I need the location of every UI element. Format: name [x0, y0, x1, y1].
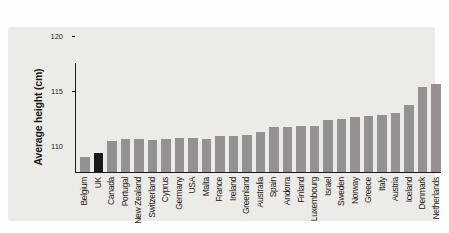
x-axis-label: France: [215, 177, 224, 233]
bar-column: Iceland: [404, 63, 414, 172]
bar-sweden: [337, 119, 347, 172]
x-axis-label: Austria: [391, 177, 400, 233]
bar-column: Greenland: [242, 63, 252, 172]
bar-usa: [188, 138, 198, 172]
x-axis-label: Israel: [324, 177, 333, 233]
plot-area: BelgiumUKCanadaPortugalNew ZealandSwitze…: [75, 63, 441, 173]
y-tick-mark: [72, 91, 76, 92]
bar-column: USA: [188, 63, 198, 172]
bar-canada: [107, 141, 117, 172]
x-axis-label: Greece: [364, 177, 373, 233]
bar-column: Israel: [323, 63, 333, 172]
figure: Average height (cm) BelgiumUKCanadaPortu…: [0, 0, 449, 233]
bar-uk: [94, 153, 104, 172]
bar-greece: [364, 116, 374, 172]
bar-germany: [175, 138, 185, 172]
chart-card: Average height (cm) BelgiumUKCanadaPortu…: [8, 27, 435, 221]
bar-column: Austria: [391, 63, 401, 172]
x-axis-label: Switzerland: [148, 177, 157, 233]
x-axis-label: Portugal: [121, 177, 130, 233]
bar-belgium: [80, 157, 90, 172]
bar-switzerland: [148, 140, 158, 172]
bar-norway: [350, 117, 360, 172]
y-axis-title: Average height (cm): [32, 69, 44, 166]
bar-netherlands: [431, 84, 441, 172]
bar-column: Germany: [175, 63, 185, 172]
x-axis-label: Cyprus: [161, 177, 170, 233]
x-axis-label: Norway: [351, 177, 360, 233]
x-axis-label: Malta: [202, 177, 211, 233]
bar-spain: [269, 127, 279, 172]
bar-column: Malta: [202, 63, 212, 172]
bar-column: UK: [94, 63, 104, 172]
x-axis-label: Canada: [107, 177, 116, 233]
y-tick-label: 115: [43, 87, 63, 96]
bar-new-zealand: [134, 139, 144, 172]
x-axis-label: Australia: [256, 177, 265, 233]
bar-denmark: [418, 87, 428, 172]
x-axis-label: USA: [188, 177, 197, 233]
x-axis-label: Greenland: [242, 177, 251, 233]
bar-column: Finland: [296, 63, 306, 172]
bar-ireland: [229, 136, 239, 172]
x-axis-label: Germany: [175, 177, 184, 233]
bar-column: Italy: [377, 63, 387, 172]
bar-column: Cyprus: [161, 63, 171, 172]
bar-column: Norway: [350, 63, 360, 172]
x-axis-label: Finland: [297, 177, 306, 233]
x-axis-label: Sweden: [337, 177, 346, 233]
bar-column: Switzerland: [148, 63, 158, 172]
y-tick-label: 110: [43, 142, 63, 151]
x-axis-label: UK: [94, 177, 103, 233]
bar-greenland: [242, 135, 252, 172]
x-axis-label: Netherlands: [432, 177, 441, 233]
x-axis-label: Denmark: [418, 177, 427, 233]
bar-andorra: [283, 127, 293, 172]
x-axis-label: Italy: [378, 177, 387, 233]
bar-column: Australia: [256, 63, 266, 172]
bar-australia: [256, 132, 266, 172]
bar-column: Luxembourg: [310, 63, 320, 172]
x-axis-label: Ireland: [229, 177, 238, 233]
bar-portugal: [121, 139, 131, 172]
bar-austria: [391, 113, 401, 172]
bar-malta: [202, 139, 212, 172]
bar-column: Greece: [364, 63, 374, 172]
bar-column: Portugal: [121, 63, 131, 172]
bar-column: New Zealand: [134, 63, 144, 172]
bar-column: Sweden: [337, 63, 347, 172]
bar-france: [215, 136, 225, 172]
y-tick-label: 120: [43, 32, 63, 41]
bar-column: Spain: [269, 63, 279, 172]
bar-column: Andorra: [283, 63, 293, 172]
x-axis-label: Iceland: [405, 177, 414, 233]
bar-column: Canada: [107, 63, 117, 172]
x-axis-label: Luxembourg: [310, 177, 319, 233]
x-axis-label: Andorra: [283, 177, 292, 233]
bar-italy: [377, 115, 387, 172]
bar-finland: [296, 126, 306, 172]
y-tick-mark: [72, 36, 76, 37]
bar-column: Denmark: [418, 63, 428, 172]
bar-iceland: [404, 105, 414, 172]
bar-column: Belgium: [80, 63, 90, 172]
bar-israel: [323, 120, 333, 172]
bar-cyprus: [161, 139, 171, 172]
bar-column: France: [215, 63, 225, 172]
x-axis-label: Spain: [269, 177, 278, 233]
bar-column: Netherlands: [431, 63, 441, 172]
bar-column: Ireland: [229, 63, 239, 172]
x-axis-label: Belgium: [80, 177, 89, 233]
x-axis-label: New Zealand: [134, 177, 143, 233]
bar-luxembourg: [310, 126, 320, 172]
